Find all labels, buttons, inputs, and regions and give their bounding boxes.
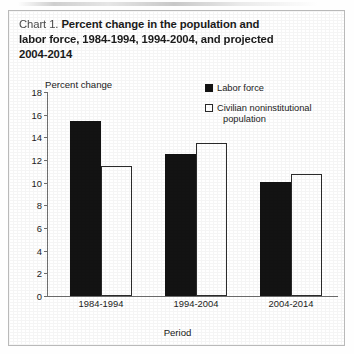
- y-axis-tick-label: 10: [32, 177, 42, 188]
- bar-group: [70, 92, 132, 296]
- bar-labor-force: [260, 182, 291, 296]
- plot-area: 181614121086420 1984-19941994-20042004-2…: [47, 92, 338, 297]
- x-axis-category-label: 1994-2004: [174, 298, 219, 309]
- x-axis-category-label: 1984-1994: [79, 298, 124, 309]
- y-axis-tick-label: 8: [37, 200, 42, 211]
- chart-title-line-1: Percent change in the population and: [61, 18, 259, 30]
- y-axis-tick-label: 0: [37, 291, 42, 302]
- y-axis-title: Percent change: [45, 79, 112, 90]
- y-axis-tick: [44, 183, 48, 184]
- y-axis-tick: [44, 273, 48, 274]
- y-axis-tick: [44, 205, 48, 206]
- y-axis-tick: [44, 251, 48, 252]
- bar-civilian-population: [101, 166, 132, 296]
- chart-title: Chart 1. Percent change in the populatio…: [19, 17, 337, 62]
- chart-title-line-2: labor force, 1984-1994, 1994-2004, and p…: [19, 32, 337, 47]
- bar-labor-force: [165, 154, 196, 296]
- filled-square-icon: [205, 84, 213, 92]
- y-axis-tick-label: 2: [37, 268, 42, 279]
- y-axis-tick-label: 12: [32, 155, 42, 166]
- y-axis-tick: [44, 160, 48, 161]
- y-axis-tick-label: 18: [32, 87, 42, 98]
- y-axis-tick: [44, 137, 48, 138]
- y-axis-tick: [44, 115, 48, 116]
- scanned-page: Chart 1. Percent change in the populatio…: [0, 0, 354, 354]
- chart-figure: Chart 1. Percent change in the populatio…: [8, 10, 345, 346]
- y-axis-tick-label: 6: [37, 223, 42, 234]
- y-axis-tick: [44, 296, 48, 297]
- bar-group: [260, 92, 322, 296]
- bar-civilian-population: [291, 174, 322, 296]
- y-axis-tick-label: 16: [32, 109, 42, 120]
- bar-civilian-population: [196, 143, 227, 296]
- y-axis-tick: [44, 228, 48, 229]
- x-axis-title: Period: [9, 327, 346, 338]
- chart-title-line-3: 2004-2014: [19, 47, 337, 62]
- bar-labor-force: [70, 121, 101, 296]
- y-axis-tick-label: 14: [32, 132, 42, 143]
- bar-group: [165, 92, 227, 296]
- x-axis-category-label: 2004-2014: [269, 298, 314, 309]
- y-axis-tick: [44, 92, 48, 93]
- y-axis-tick-label: 4: [37, 245, 42, 256]
- scan-artifact: [18, 2, 318, 6]
- chart-title-lead: Chart 1.: [19, 18, 58, 30]
